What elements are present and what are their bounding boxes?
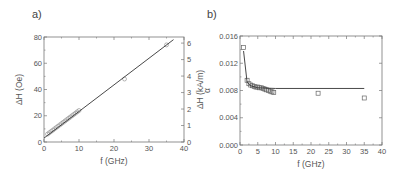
y-tick-label: 0.012 [219,59,238,68]
x-tick-label: 15 [289,147,297,156]
x-tick-label: 30 [342,147,350,156]
y-right-tick-label: 2 [187,105,191,114]
panel-b-chart: b)05101520253035400.0000.0040.0080.0120.… [202,8,386,169]
y-tick-label: 0.004 [219,113,238,122]
panel-label: a) [32,8,42,20]
y-tick-label: 60 [34,59,42,68]
panel-a-chart: a)0102030400204060800123456ΔH (kA/m)f (G… [14,8,205,166]
y-tick-label: 20 [34,111,42,120]
fit-line [244,51,365,88]
y-right-tick-label: 5 [187,55,191,64]
x-tick-label: 10 [75,144,83,153]
x-tick-label: 25 [325,147,333,156]
y-tick-label: 0.000 [219,141,238,150]
x-tick-label: 30 [145,144,153,153]
y-tick-label: 40 [34,85,42,94]
y-right-tick-label: 6 [187,39,191,48]
y-right-tick-label: 4 [187,72,191,81]
x-axis-label: f (GHz) [100,156,128,166]
x-tick-label: 10 [271,147,279,156]
plot-frame [44,37,184,142]
y-tick-label: 0.016 [219,32,238,41]
x-tick-label: 40 [378,147,386,156]
y-axis-label: α [202,88,212,93]
y-right-tick-label: 1 [187,121,191,130]
x-axis-label: f (GHz) [297,159,325,169]
x-tick-label: 20 [110,144,118,153]
data-point [362,96,366,100]
y-tick-label: 0 [38,138,42,147]
y-right-tick-label: 0 [187,138,191,147]
y-tick-label: 80 [34,33,42,42]
x-tick-label: 0 [238,147,242,156]
y-tick-label: 0.008 [219,86,238,95]
figure: a)0102030400204060800123456ΔH (kA/m)f (G… [0,0,403,177]
x-tick-label: 35 [360,147,368,156]
x-tick-label: 5 [256,147,260,156]
y-right-tick-label: 3 [187,88,191,97]
x-tick-label: 20 [307,147,315,156]
data-point [316,91,320,95]
y-axis-label: ΔH (Oe) [14,74,24,105]
x-tick-label: 0 [42,144,46,153]
fit-line [44,40,174,138]
panel-label: b) [207,8,217,20]
data-point [242,46,246,50]
